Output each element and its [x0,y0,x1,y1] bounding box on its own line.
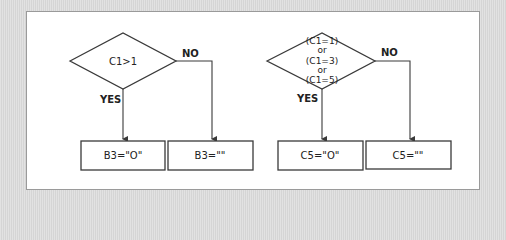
decision-text-2-line-4: or [317,65,327,75]
no-label-2: NO [381,47,398,58]
decision-text-2-line-2: or [317,45,327,55]
flowchart-2: (C1=1) or (C1=3) or (C1=5) NO YES C5="O"… [267,33,451,170]
no-label-1: NO [182,48,199,59]
yes-result-text-1: B3="O" [104,150,143,161]
yes-label-2: YES [296,93,318,104]
flowchart-canvas: C1>1 NO YES B3="O" B3="" (C1=1) or (C1=3… [0,0,506,202]
yes-result-text-2: C5="O" [301,150,340,161]
decision-text-2-line-5: (C1=5) [306,75,338,85]
no-branch-line-2 [375,61,410,139]
no-result-text-2: C5="" [393,150,424,161]
no-result-text-1: B3="" [195,150,226,161]
flowchart-1: C1>1 NO YES B3="O" B3="" [70,33,253,170]
yes-label-1: YES [99,94,121,105]
decision-text-1: C1>1 [109,56,137,67]
no-branch-line-1 [176,61,212,139]
